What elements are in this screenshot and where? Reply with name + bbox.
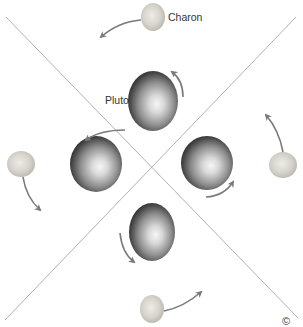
pluto-right bbox=[181, 136, 233, 190]
charon-top-arrow bbox=[101, 20, 141, 37]
position-left bbox=[7, 130, 125, 210]
charon-top bbox=[141, 3, 165, 31]
pluto-left bbox=[70, 136, 122, 192]
charon-label: Charon bbox=[168, 12, 202, 23]
pluto-top bbox=[128, 71, 178, 131]
charon-left-arrow bbox=[23, 177, 40, 210]
charon-right-arrow bbox=[266, 115, 283, 152]
pluto-label: Pluto bbox=[105, 95, 129, 106]
position-bottom bbox=[120, 203, 201, 323]
charon-left bbox=[7, 151, 35, 177]
charon-bottom bbox=[140, 295, 164, 323]
corner-copyright-glyph: © bbox=[282, 316, 290, 327]
charon-right bbox=[269, 152, 297, 178]
position-right bbox=[181, 115, 297, 197]
diagonal-line-2 bbox=[5, 17, 296, 320]
charon-bottom-arrow bbox=[164, 292, 201, 311]
pluto-bottom bbox=[129, 203, 175, 261]
